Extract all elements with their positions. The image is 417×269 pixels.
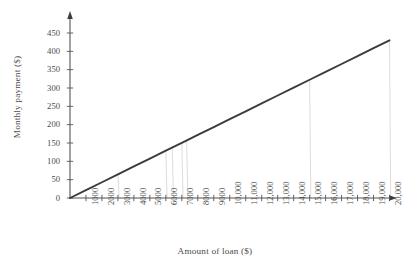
y-axis-tick-label: 250 bbox=[34, 101, 60, 111]
y-axis-tick-label: 200 bbox=[34, 119, 60, 129]
y-axis-tick-label: 0 bbox=[34, 193, 60, 203]
x-axis-tick-label: 20,000 bbox=[393, 181, 403, 205]
x-axis-tick-label: 8000 bbox=[201, 188, 211, 205]
x-axis-tick-label: 2000 bbox=[106, 188, 116, 205]
data-series-line bbox=[70, 40, 390, 198]
scan-artifact-line bbox=[182, 143, 183, 198]
x-axis-tick-label: 18,000 bbox=[361, 181, 371, 205]
x-axis-tick-label: 10,000 bbox=[233, 181, 243, 205]
x-axis-tick-label: 3000 bbox=[122, 188, 132, 205]
x-axis-tick-label: 16,000 bbox=[329, 181, 339, 205]
x-axis-tick-label: 1000 bbox=[90, 188, 100, 205]
scan-artifact-line bbox=[166, 151, 167, 198]
chart-container: Monthly payment ($) Amount of loan ($) 0… bbox=[0, 0, 417, 269]
y-axis-title: Monthly payment ($) bbox=[12, 37, 22, 157]
y-axis-tick-label: 300 bbox=[34, 83, 60, 93]
x-axis-tick-label: 9000 bbox=[217, 188, 227, 205]
y-axis-arrowhead bbox=[67, 11, 73, 19]
x-axis-tick-label: 17,000 bbox=[345, 181, 355, 205]
y-axis-tick-label: 350 bbox=[34, 64, 60, 74]
scan-artifact-line bbox=[390, 40, 391, 198]
x-axis-tick-label: 12,000 bbox=[265, 181, 275, 205]
scan-artifact-lines bbox=[118, 40, 391, 198]
chart-plot-area bbox=[0, 0, 417, 269]
scan-artifact-line bbox=[310, 80, 311, 198]
chart-axes bbox=[67, 11, 397, 201]
y-axis-tick-label: 450 bbox=[34, 28, 60, 38]
y-axis-tick-label: 100 bbox=[34, 156, 60, 166]
x-axis-title: Amount of loan ($) bbox=[155, 246, 275, 256]
y-axis-tick-label: 50 bbox=[34, 174, 60, 184]
y-axis-tick-label: 150 bbox=[34, 138, 60, 148]
data-series-group bbox=[70, 40, 390, 198]
x-axis-tick-label: 14,000 bbox=[297, 181, 307, 205]
x-axis-tick-label: 5000 bbox=[153, 188, 163, 205]
scan-artifact-line bbox=[118, 174, 119, 198]
x-axis-tick-label: 19,000 bbox=[377, 181, 387, 205]
x-axis-tick-label: 13,000 bbox=[281, 181, 291, 205]
y-axis-tick-label: 400 bbox=[34, 46, 60, 56]
x-axis-tick-label: 7000 bbox=[185, 188, 195, 205]
x-axis-tick-label: 11,000 bbox=[249, 182, 259, 205]
x-axis-tick-label: 6000 bbox=[169, 188, 179, 205]
x-axis-tick-label: 15,000 bbox=[313, 181, 323, 205]
x-axis-tick-label: 4000 bbox=[138, 188, 148, 205]
